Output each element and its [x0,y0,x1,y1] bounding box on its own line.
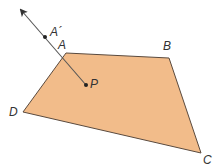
label-a-prime: A´ [49,25,62,39]
point-a-prime-dot [43,35,47,39]
quadrilateral-diagram: A´ A B C D P [0,0,221,167]
label-c: C [203,153,212,167]
point-p-dot [84,83,88,87]
label-d: D [9,105,18,119]
label-a: A [57,38,66,52]
label-p: P [90,77,98,91]
label-b: B [163,39,171,53]
quadrilateral-abcd [23,53,201,153]
